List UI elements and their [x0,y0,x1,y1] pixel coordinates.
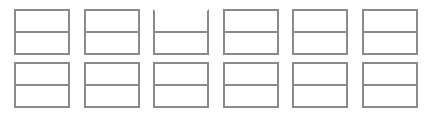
cell-top-half [225,64,277,85]
grid-cell-r2-c6 [362,62,418,108]
cell-top-half [364,11,416,32]
cell-bottom-half [294,84,346,106]
cell-bottom-half [155,31,207,53]
cell-bottom-half [155,84,207,106]
cell-top-half [16,64,68,85]
cell-top-half [86,64,138,85]
cell-bottom-half [16,31,68,53]
grid-cell-r1-c4 [223,9,279,55]
cell-bottom-half [364,31,416,53]
grid-cell-r2-c5 [292,62,348,108]
cell-bottom-half [225,31,277,53]
cell-bottom-half [225,84,277,106]
cell-top-half [86,11,138,32]
grid-cell-r1-c6 [362,9,418,55]
grid-cell-r1-c2 [84,9,140,55]
cell-bottom-half [86,31,138,53]
cell-top-half [155,11,207,32]
grid-cell-r1-c3 [153,9,209,55]
grid-cell-r2-c1 [14,62,70,108]
grid-cell-r1-c1 [14,9,70,55]
cell-top-half [16,11,68,32]
cell-bottom-half [364,84,416,106]
cell-top-half [294,11,346,32]
grid-cell-r2-c3 [153,62,209,108]
box-grid [14,9,419,108]
cell-top-half [155,64,207,85]
cell-bottom-half [86,84,138,106]
grid-cell-r2-c4 [223,62,279,108]
grid-cell-r2-c2 [84,62,140,108]
cell-bottom-half [294,31,346,53]
cell-top-half [294,64,346,85]
cell-top-half [364,64,416,85]
cell-bottom-half [16,84,68,106]
grid-cell-r1-c5 [292,9,348,55]
cell-top-half [225,11,277,32]
